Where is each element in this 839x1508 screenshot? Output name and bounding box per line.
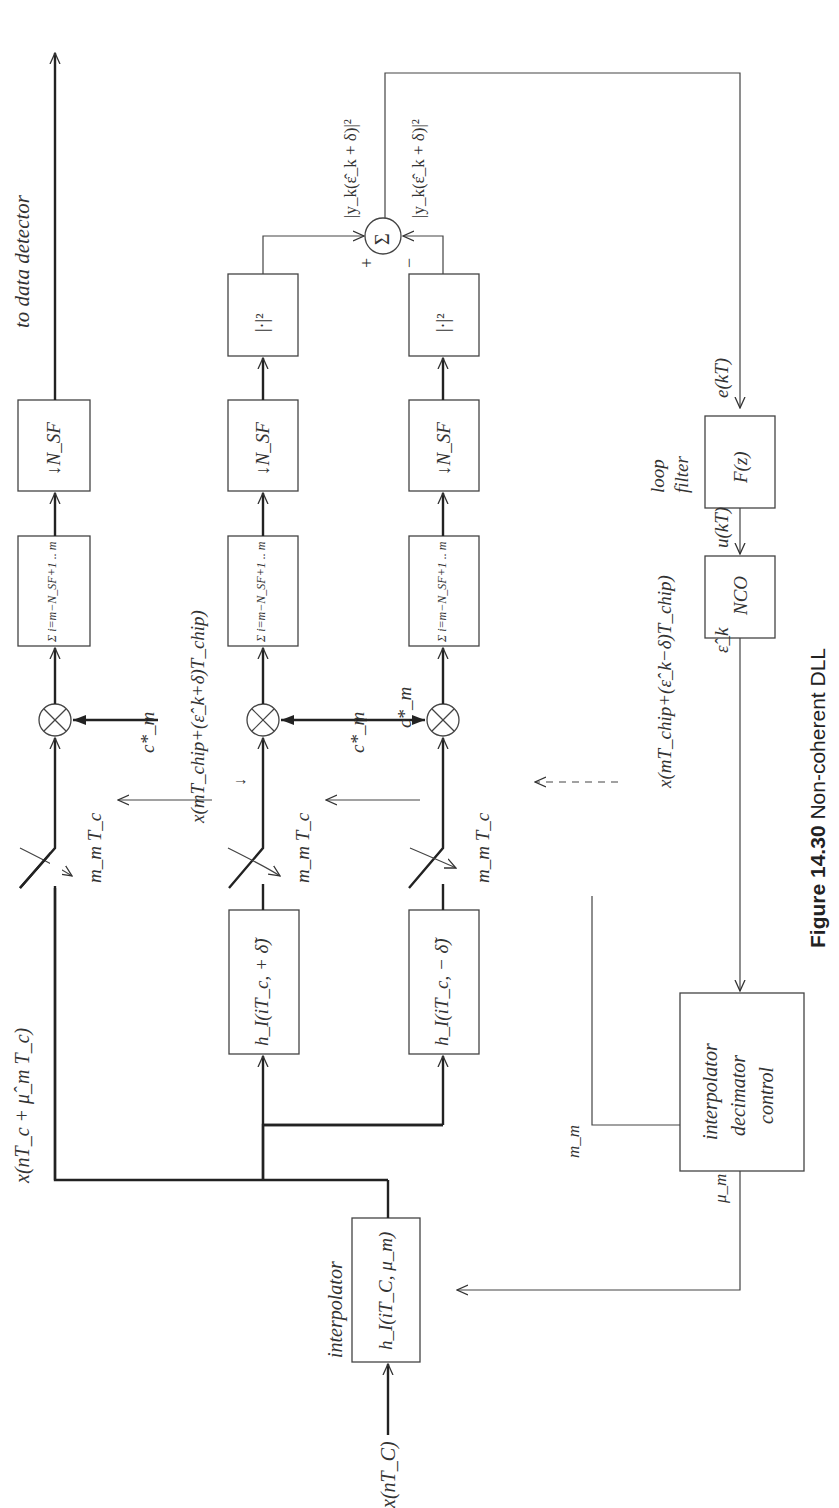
- squarer-mid-label: |·|²: [253, 313, 271, 332]
- sampler-switch-bot: [409, 788, 456, 888]
- multiplier-mid: [247, 704, 279, 736]
- caption-text: Non-coherent DLL: [806, 648, 829, 820]
- decimator-bot-label: ↓N_SF: [434, 422, 453, 475]
- m-m-label: m_m: [565, 1125, 582, 1158]
- m-m-wire: [592, 896, 680, 1125]
- interpolator-formula: h_I(iT_C, μ_m): [376, 1232, 395, 1350]
- error-label: e(kT): [712, 358, 731, 398]
- minus-sign: −: [400, 258, 418, 268]
- code-label-bot: c*_m: [395, 687, 414, 728]
- interpolator-label: interpolator: [325, 1261, 345, 1358]
- adder-plus-in: [263, 236, 364, 274]
- sampler-switch-mid: [228, 788, 280, 888]
- adder-symbol: Σ: [372, 233, 392, 245]
- mu-m-wire: [457, 1171, 740, 1290]
- adder-minus-input-label: |y_k(ε̂_k + δ)|²: [410, 119, 427, 218]
- accumulator-mid-formula: Σ i=m−N_SF+1 .. m: [255, 542, 267, 642]
- caption-number: Figure 14.30: [806, 825, 829, 948]
- loop-filter-label-2: filter: [672, 456, 691, 493]
- error-wire: [385, 73, 740, 408]
- code-label-top: c*_m: [138, 712, 157, 753]
- interp-out-label: x(nT_c + μ̂_m T_c): [12, 1028, 32, 1183]
- early-sample-label: x(mT_chip+(ε̂_k+δ)T_chip): [188, 610, 207, 823]
- multiplier-top: [39, 704, 71, 736]
- input-label: x(nT_C): [378, 1441, 398, 1508]
- row1-input-wire: [55, 668, 182, 1180]
- loop-filter-formula: F(z): [731, 451, 750, 483]
- u-label: u(kT): [712, 507, 731, 548]
- sample-time-mid: m_m T_c: [293, 813, 312, 883]
- decimator-mid-label: ↓N_SF: [253, 422, 272, 475]
- row23-bus: [263, 1125, 443, 1180]
- accumulator-top-formula: Σ i=m−N_SF+1 .. m: [46, 542, 58, 642]
- squarer-bot-label: |·|²: [434, 313, 452, 332]
- early-arrow-glyph: ↓: [232, 778, 248, 786]
- figure-caption: Figure 14.30 Non-coherent DLL: [806, 648, 830, 948]
- filter-minus-formula: h_I(iT_c, − δ̃): [432, 938, 451, 1046]
- control-label-2: decimator: [728, 1055, 748, 1136]
- control-label-3: control: [756, 1067, 776, 1124]
- sampler-switch-top: [20, 788, 72, 888]
- to-data-detector-label: to data detector: [12, 195, 33, 328]
- adder-plus-input-label: |y_k(ε̂_k + δ)|²: [342, 119, 359, 218]
- nco-out-label: ε̂_k: [712, 628, 731, 653]
- loop-filter-label-1: loop: [648, 459, 667, 493]
- mu-m-label: μ_m: [712, 1174, 729, 1203]
- nco-label: NCO: [731, 576, 750, 615]
- plus-sign: +: [358, 258, 376, 268]
- adder-minus-in: [403, 236, 443, 274]
- sample-time-bot: m_m T_c: [473, 813, 492, 883]
- filter-plus-formula: h_I(iT_c, + δ̃): [252, 938, 271, 1046]
- code-label-mid: c*_m: [348, 712, 367, 753]
- late-sample-label: x(mT_chip+(ε̂_k−δ)T_chip): [655, 575, 674, 788]
- decimator-top-label: ↓N_SF: [44, 422, 63, 475]
- multiplier-bot: [427, 704, 459, 736]
- accumulator-bot-formula: Σ i=m−N_SF+1 .. m: [436, 542, 448, 642]
- diagram-wires: [0, 0, 839, 1508]
- sample-time-top: m_m T_c: [85, 813, 104, 883]
- control-label-1: interpolator: [700, 1043, 720, 1140]
- block-diagram: x(nT_C) interpolator h_I(iT_C, μ_m) x(nT…: [0, 0, 839, 1508]
